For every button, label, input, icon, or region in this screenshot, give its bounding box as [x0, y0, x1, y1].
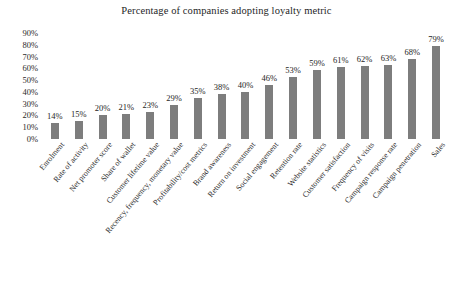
bar — [146, 112, 154, 139]
chart-title: Percentage of companies adopting loyalty… — [0, 5, 453, 16]
bar — [408, 59, 416, 139]
bar-value-label: 29% — [166, 94, 182, 103]
bar-group: 79% — [424, 33, 448, 139]
bar — [313, 70, 321, 139]
bar-chart-figure: Percentage of companies adopting loyalty… — [0, 0, 453, 290]
y-tick-label: 30% — [22, 100, 38, 109]
plot-area: 14%15%20%21%23%29%35%38%40%46%53%59%61%6… — [43, 33, 448, 139]
bar — [384, 65, 392, 139]
y-tick-label: 10% — [22, 123, 38, 132]
bar-value-label: 40% — [238, 81, 254, 90]
bar — [289, 77, 297, 139]
bar-value-label: 46% — [262, 74, 278, 83]
bar-value-label: 20% — [95, 104, 111, 113]
bar-group: 15% — [67, 33, 91, 139]
bar-group: 14% — [43, 33, 67, 139]
bar — [194, 98, 202, 139]
y-tick-label: 70% — [22, 53, 38, 62]
bar-group: 40% — [234, 33, 258, 139]
bar — [337, 67, 345, 139]
y-tick-label: 80% — [22, 41, 38, 50]
bar-group: 62% — [353, 33, 377, 139]
bar-group: 20% — [91, 33, 115, 139]
bar-value-label: 62% — [357, 55, 373, 64]
bar-group: 29% — [162, 33, 186, 139]
y-axis: 90%80%70%60%50%40%30%20%10%0% — [0, 26, 40, 146]
bar-value-label: 59% — [309, 59, 325, 68]
bar-group: 35% — [186, 33, 210, 139]
bar-group: 61% — [329, 33, 353, 139]
bar-value-label: 15% — [71, 110, 87, 119]
x-axis: EnrolmentRate of activityNet promoter sc… — [43, 141, 448, 286]
bar-group: 53% — [281, 33, 305, 139]
bar-group: 21% — [114, 33, 138, 139]
bar-group: 68% — [400, 33, 424, 139]
y-tick-label: 90% — [22, 29, 38, 38]
bar-value-label: 21% — [119, 103, 135, 112]
bar — [51, 123, 59, 139]
bar-group: 38% — [210, 33, 234, 139]
bar-group: 59% — [305, 33, 329, 139]
y-tick-label: 60% — [22, 64, 38, 73]
y-tick-label: 0% — [27, 135, 38, 144]
y-tick-label: 40% — [22, 88, 38, 97]
bar — [361, 66, 369, 139]
y-tick-label: 50% — [22, 76, 38, 85]
bar — [218, 94, 226, 139]
bar — [265, 85, 273, 139]
bar-group: 63% — [377, 33, 401, 139]
bar-value-label: 68% — [404, 48, 420, 57]
bar-value-label: 79% — [428, 35, 444, 44]
bar — [170, 105, 178, 139]
bar — [99, 115, 107, 139]
x-tick-label: Sales — [430, 141, 447, 159]
bar-value-label: 23% — [142, 101, 158, 110]
bar — [75, 121, 83, 139]
bar-group: 23% — [138, 33, 162, 139]
bar — [241, 92, 249, 139]
bar-value-label: 63% — [381, 54, 397, 63]
x-tick-label: Campaign penetration — [372, 141, 424, 201]
bar-value-label: 53% — [285, 66, 301, 75]
bar-group: 46% — [257, 33, 281, 139]
bar-value-label: 61% — [333, 56, 349, 65]
bar-value-label: 35% — [190, 87, 206, 96]
bar-value-label: 38% — [214, 83, 230, 92]
bar-value-label: 14% — [47, 112, 63, 121]
bar — [122, 114, 130, 139]
y-tick-label: 20% — [22, 111, 38, 120]
bar — [432, 46, 440, 139]
